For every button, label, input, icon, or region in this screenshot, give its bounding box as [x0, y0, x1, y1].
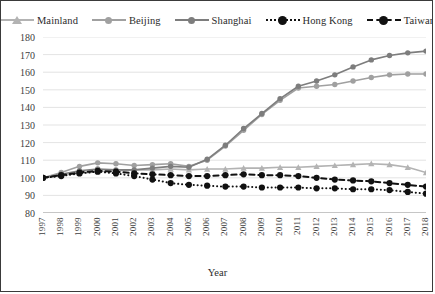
- data-point: [369, 75, 374, 80]
- x-axis-tick-label: 1997: [37, 217, 49, 261]
- x-axis-tick-label: 2006: [201, 217, 213, 261]
- data-point: [223, 143, 228, 148]
- legend-item-shanghai[interactable]: Shanghai: [175, 14, 252, 26]
- legend-dot-icon: [278, 16, 287, 25]
- x-axis-tick-label: 2000: [92, 217, 104, 261]
- data-point: [423, 184, 426, 190]
- x-axis-tick-label: 2017: [402, 217, 414, 261]
- legend-item-mainland[interactable]: Mainland: [0, 14, 78, 26]
- data-point: [295, 173, 301, 179]
- data-point: [204, 157, 209, 162]
- data-point: [350, 78, 355, 83]
- legend-item-label: Shanghai: [212, 15, 252, 26]
- x-axis-tick-label: 2015: [365, 217, 377, 261]
- x-axis-tick-label: 2004: [165, 217, 177, 261]
- data-point: [423, 191, 426, 197]
- x-axis-tick-label: 2003: [146, 217, 158, 261]
- data-point: [368, 186, 374, 192]
- x-axis-tick-label: 2016: [384, 217, 396, 261]
- data-point: [350, 177, 356, 183]
- data-point: [168, 180, 174, 186]
- legend-marker: [175, 14, 209, 26]
- data-point: [168, 172, 174, 178]
- y-axis-tick-label: 140: [1, 102, 35, 113]
- y-axis-tick-label: 170: [1, 49, 35, 60]
- y-axis-tick-label: 120: [1, 137, 35, 148]
- data-point: [241, 184, 247, 190]
- x-axis-tick-label: 2012: [311, 217, 323, 261]
- x-axis-tick-label: 2008: [238, 217, 250, 261]
- plot-area: [43, 37, 426, 213]
- data-point: [369, 57, 374, 62]
- x-axis-tick-labels: 1997199819992000200120022003200420052006…: [43, 217, 426, 263]
- series-line: [43, 171, 426, 187]
- data-point: [314, 78, 319, 83]
- data-point: [350, 64, 355, 69]
- legend-item-label: Taiwan: [404, 15, 433, 26]
- legend-item-hong-kong[interactable]: Hong Kong: [266, 14, 353, 26]
- data-point: [350, 186, 356, 192]
- legend-item-taiwan[interactable]: Taiwan: [367, 14, 433, 26]
- data-point: [386, 187, 392, 193]
- data-point: [405, 189, 411, 195]
- legend-dot-icon: [188, 17, 195, 24]
- data-point: [423, 48, 426, 53]
- data-point: [76, 169, 82, 175]
- data-point: [186, 173, 192, 179]
- legend-item-beijing[interactable]: Beijing: [92, 14, 161, 26]
- x-axis-tick-label: 1998: [55, 217, 67, 261]
- series-line: [43, 51, 426, 178]
- legend-dot-icon: [379, 16, 388, 25]
- legend-dot-icon: [105, 17, 112, 24]
- y-axis-tick-label: 100: [1, 172, 35, 183]
- data-point: [113, 161, 118, 166]
- data-point: [277, 172, 283, 178]
- data-point: [186, 165, 191, 170]
- data-point: [222, 184, 228, 190]
- data-point: [295, 184, 301, 190]
- data-point: [405, 182, 411, 188]
- y-axis-tick-label: 180: [1, 32, 35, 43]
- data-point: [241, 171, 247, 177]
- x-axis-tick-label: 2018: [420, 217, 432, 261]
- data-point: [58, 172, 64, 178]
- x-axis-tick-label: 2001: [110, 217, 122, 261]
- data-point: [149, 171, 155, 177]
- x-axis-tick-label: 2011: [292, 217, 304, 261]
- data-point: [405, 50, 410, 55]
- data-point: [150, 165, 155, 170]
- legend-triangle-icon: [12, 16, 22, 24]
- x-axis-title: Year: [1, 267, 433, 278]
- x-axis-tick-label: 2009: [256, 217, 268, 261]
- data-point: [405, 71, 410, 76]
- series-svg: [43, 37, 426, 213]
- legend-marker: [92, 14, 126, 26]
- x-axis-tick-label: 2010: [274, 217, 286, 261]
- data-point: [277, 96, 282, 101]
- data-point: [222, 172, 228, 178]
- data-point: [314, 84, 319, 89]
- data-point: [313, 175, 319, 181]
- data-point: [149, 176, 155, 182]
- legend-item-label: Beijing: [129, 15, 161, 26]
- legend-marker: [266, 14, 300, 26]
- y-axis-tick-label: 90: [1, 190, 35, 201]
- y-axis-tick-label: 80: [1, 208, 35, 219]
- chart-container: MainlandBeijingShanghaiHong KongTaiwan 8…: [0, 0, 433, 292]
- y-axis-tick-label: 130: [1, 120, 35, 131]
- x-axis-tick-label: 2013: [329, 217, 341, 261]
- data-point: [95, 168, 101, 174]
- legend-item-label: Mainland: [37, 15, 78, 26]
- legend-item-label: Hong Kong: [303, 15, 353, 26]
- data-point: [332, 185, 338, 191]
- data-point: [332, 72, 337, 77]
- legend-marker: [0, 14, 34, 26]
- x-axis-tick-label: 1999: [73, 217, 85, 261]
- series-shanghai: [43, 48, 426, 180]
- data-point: [313, 185, 319, 191]
- data-point: [386, 180, 392, 186]
- data-point: [131, 170, 137, 176]
- data-point: [387, 53, 392, 58]
- series-taiwan: [43, 168, 426, 190]
- data-point: [204, 173, 210, 179]
